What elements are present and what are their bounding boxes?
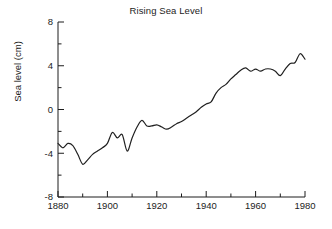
sea-level-data-line bbox=[58, 54, 305, 165]
tick-label: 1900 bbox=[97, 200, 118, 211]
axis-spine bbox=[58, 22, 305, 197]
tick-label: 1960 bbox=[245, 200, 266, 211]
tick-label: 0 bbox=[48, 104, 53, 115]
x-axis-tick-labels: 188019001920194019601980 bbox=[47, 200, 315, 211]
tick-label: 8 bbox=[48, 16, 53, 27]
y-axis-tick-labels: -8-4048 bbox=[45, 16, 53, 202]
tick-label: -4 bbox=[45, 148, 53, 159]
tick-label: 4 bbox=[48, 60, 53, 71]
tick-label: 1920 bbox=[146, 200, 167, 211]
line-chart-plot: -8-4048 188019001920194019601980 bbox=[0, 0, 332, 229]
chart-figure: Rising Sea Level Sea level (cm) -8-4048 … bbox=[0, 0, 332, 229]
x-axis-minor-ticks bbox=[83, 194, 281, 198]
tick-label: 1980 bbox=[294, 200, 315, 211]
tick-label: 1940 bbox=[196, 200, 217, 211]
y-axis-major-ticks bbox=[58, 22, 64, 197]
tick-label: 1880 bbox=[47, 200, 68, 211]
